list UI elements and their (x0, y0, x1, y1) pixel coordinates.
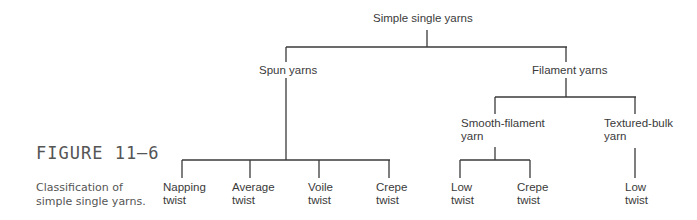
leaf-low-twist-textured: Low twist (625, 181, 648, 207)
node-smooth-line1: Smooth-filament (461, 117, 545, 130)
node-spun-yarns: Spun yarns (259, 64, 317, 77)
node-filament-yarns: Filament yarns (532, 64, 607, 77)
node-textured-line1: Textured-bulk (604, 117, 673, 130)
leaf-line1: Voile (308, 181, 333, 194)
node-spun-label: Spun yarns (259, 64, 317, 77)
leaf-line2: twist (232, 194, 275, 207)
leaf-line1: Crepe (517, 181, 548, 194)
leaf-line1: Low (625, 181, 648, 194)
leaf-line2: twist (376, 194, 407, 207)
leaf-crepe-twist-smooth: Crepe twist (517, 181, 548, 207)
figure-caption: Classification of simple single yarns. (36, 181, 156, 209)
node-textured-bulk: Textured-bulk yarn (604, 117, 673, 143)
figure-label: FIGURE 11–6 (36, 143, 160, 163)
node-smooth-line2: yarn (461, 130, 545, 143)
leaf-line2: twist (517, 194, 548, 207)
leaf-crepe-twist-spun: Crepe twist (376, 181, 407, 207)
leaf-low-twist-smooth: Low twist (451, 181, 474, 207)
leaf-average-twist: Average twist (232, 181, 275, 207)
leaf-voile-twist: Voile twist (308, 181, 333, 207)
node-root: Simple single yarns (373, 12, 473, 25)
node-root-label: Simple single yarns (373, 12, 473, 25)
leaf-line1: Napping (163, 181, 206, 194)
leaf-line2: twist (163, 194, 206, 207)
node-smooth-filament: Smooth-filament yarn (461, 117, 545, 143)
node-textured-line2: yarn (604, 130, 673, 143)
leaf-line2: twist (451, 194, 474, 207)
leaf-line1: Crepe (376, 181, 407, 194)
leaf-line1: Average (232, 181, 275, 194)
leaf-line1: Low (451, 181, 474, 194)
leaf-line2: twist (308, 194, 333, 207)
leaf-line2: twist (625, 194, 648, 207)
leaf-napping-twist: Napping twist (163, 181, 206, 207)
node-filament-label: Filament yarns (532, 64, 607, 77)
